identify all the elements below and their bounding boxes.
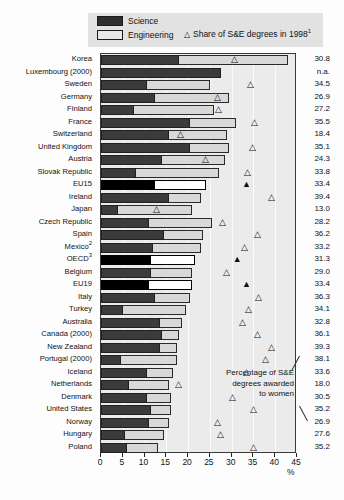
legend-item-engineering: Engineering [97,30,173,40]
bar-row[interactable]: △ [101,305,295,315]
category-label: Italy [78,293,92,301]
bar-row[interactable]: △ [101,343,295,353]
bar-row[interactable]: △ [101,418,295,428]
bar-row[interactable]: △ [101,318,295,328]
axis-tick-label: 0 [98,458,103,467]
annotation-line-1: Percentage of S&E [208,368,294,379]
category-label: Iceland [68,368,93,376]
bar-row[interactable]: △ [101,80,295,90]
bar-row[interactable]: △ [101,243,295,253]
bar-row[interactable]: △ [101,105,295,115]
share-marker-icon: △ [255,293,262,302]
value-label: 18.0 [300,380,330,388]
value-label: 28.2 [300,218,330,226]
legend-item-share: △ Share of S&E degrees in 19981 [184,30,311,39]
value-label: n.a. [300,68,330,76]
bar-row[interactable]: ▲ [101,280,295,290]
share-marker-icon: △ [250,443,257,452]
bar-science [101,368,147,378]
share-marker-icon: ▲ [242,180,251,189]
category-label: Poland [68,443,92,451]
bar-row[interactable]: △ [101,443,295,453]
bar-row[interactable]: △ [101,230,295,240]
engineering-swatch-icon [97,30,123,40]
bar-science [101,418,149,428]
footnote-marker: 2 [89,240,92,246]
category-label: Turkey [69,305,92,313]
value-label: 39.4 [300,193,330,201]
bar-row[interactable]: ▲ [101,180,295,190]
bar-row[interactable]: △ [101,355,295,365]
bar-science [101,218,149,228]
bar-row[interactable]: △ [101,218,295,228]
value-label: 35.1 [300,143,330,151]
category-label: Ireland [69,193,92,201]
value-label: 30.8 [300,55,330,63]
value-label: 30.5 [300,393,330,401]
share-marker-icon: △ [250,405,257,414]
bar-row[interactable]: △ [101,205,295,215]
share-marker-icon: △ [231,55,238,64]
bar-row[interactable]: △ [101,268,295,278]
footnote-marker: 3 [89,253,92,259]
value-label: 18.4 [300,130,330,138]
bar-science [101,330,162,340]
category-label: Portugal (2000) [40,355,92,363]
bar-science [101,193,169,203]
legend-label-science: Science [128,17,158,26]
bar-row[interactable]: △ [101,155,295,165]
share-marker-icon: △ [202,155,209,164]
category-label: Canada (2000) [41,330,92,338]
axis-tick-label: 20 [182,458,191,467]
share-marker-icon: △ [223,268,230,277]
bar-row[interactable]: △ [101,118,295,128]
bar-science [101,143,190,153]
axis-tick-label: 10 [139,458,148,467]
bar-row[interactable]: △ [101,405,295,415]
bar-science [101,305,123,315]
share-marker-icon: △ [214,418,221,427]
bar-row[interactable]: △ [101,93,295,103]
category-label: Belgium [65,268,92,276]
share-marker-icon: △ [177,130,184,139]
share-marker-icon: △ [214,93,221,102]
share-marker-icon: △ [268,193,275,202]
share-marker-icon: △ [243,368,250,377]
bar-row[interactable]: △ [101,130,295,140]
value-label: 26.9 [300,418,330,426]
value-label: 36.1 [300,330,330,338]
bar-row[interactable]: △ [101,430,295,440]
bar-row[interactable]: ▲ [101,255,295,265]
bar-row[interactable]: △ [101,193,295,203]
value-label: 33.8 [300,168,330,176]
axis-tick-label: 30 [226,458,235,467]
share-marker-icon: ▲ [233,255,242,264]
value-label: 35.2 [300,405,330,413]
value-label: 24.3 [300,155,330,163]
value-label: 33.4 [300,280,330,288]
category-label: Netherlands [51,380,92,388]
category-label: Australia [62,318,92,326]
bar-science [101,155,162,165]
bar-science [101,243,153,253]
value-label: 27.6 [300,430,330,438]
category-label: Spain [73,230,92,238]
bar-science [101,405,151,415]
category-label: Luxembourg (2000) [26,68,92,76]
bar-row[interactable]: △ [101,55,295,65]
share-marker-icon: △ [249,143,256,152]
category-label: Korea [72,55,92,63]
value-label: 35.5 [300,118,330,126]
bar-science [101,430,125,440]
bar-row[interactable]: △ [101,168,295,178]
annotation-line-3: to women [208,389,294,400]
share-marker-icon: △ [239,318,246,327]
bar-row[interactable]: △ [101,293,295,303]
bar-row[interactable]: △ [101,143,295,153]
category-label: Japan [71,205,92,213]
value-label: 34.1 [300,305,330,313]
bar-row[interactable] [101,68,295,78]
share-marker-icon: △ [175,380,182,389]
value-label: 33.2 [300,243,330,251]
bar-row[interactable]: △ [101,330,295,340]
